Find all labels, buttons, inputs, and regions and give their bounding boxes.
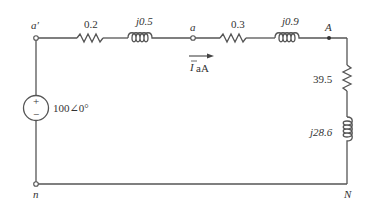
inductor-j0.5 [128, 33, 163, 42]
label-x-j28.6: j28.6 [308, 126, 333, 138]
label-a: a [190, 21, 196, 33]
label-A: A [324, 21, 332, 33]
resistor-0.3 [220, 34, 246, 42]
label-r-39.5: 39.5 [313, 73, 333, 85]
label-r-0.2: 0.2 [84, 18, 98, 30]
label-N: N [343, 188, 352, 200]
node-A [327, 36, 331, 40]
label-r-0.3: 0.3 [231, 18, 245, 30]
label-n: n [33, 188, 39, 200]
label-a-prime: a′ [31, 19, 40, 31]
node-n [34, 182, 39, 187]
source-minus: − [33, 108, 39, 120]
resistor-0.2 [77, 34, 103, 42]
node-a-prime [34, 36, 39, 41]
label-x-j0.5: j0.5 [134, 15, 153, 27]
current-arrow-head [207, 54, 214, 59]
inductor-j28.6 [343, 117, 352, 152]
label-x-j0.9: j0.9 [280, 15, 299, 27]
current-symbol: I [189, 61, 195, 73]
circuit-diagram: + − 100∠0° a′ a A n N 0.2 j0.5 0.3 j0.9 … [0, 0, 373, 210]
current-subscript: aA [196, 62, 209, 74]
node-a [191, 36, 196, 41]
source-plus: + [33, 95, 39, 107]
source-value: 100∠0° [53, 102, 89, 114]
resistor-39.5 [343, 65, 351, 91]
inductor-j0.9 [275, 33, 310, 42]
